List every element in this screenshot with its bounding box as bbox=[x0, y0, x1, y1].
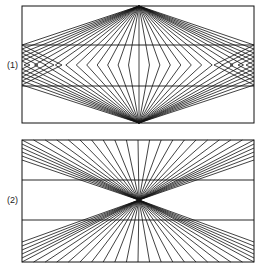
illusion-diagram bbox=[0, 0, 261, 268]
